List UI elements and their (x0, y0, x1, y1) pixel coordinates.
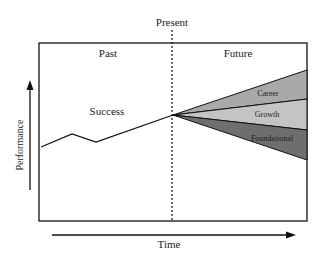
future-label: Future (224, 47, 253, 59)
foundational-label: Foundational (251, 134, 294, 143)
y-axis-label: Performance (14, 119, 25, 171)
career-label: Career (257, 89, 279, 98)
y-axis-arrowhead-icon (27, 80, 34, 90)
growth-label: Growth (255, 110, 279, 119)
performance-time-diagram: Present Past Future Success Career Growt… (0, 0, 324, 261)
x-axis-arrowhead-icon (286, 232, 296, 239)
present-label: Present (156, 16, 188, 28)
success-line (41, 115, 173, 147)
success-label: Success (90, 105, 125, 117)
past-label: Past (99, 47, 117, 59)
x-axis-label: Time (158, 238, 181, 250)
